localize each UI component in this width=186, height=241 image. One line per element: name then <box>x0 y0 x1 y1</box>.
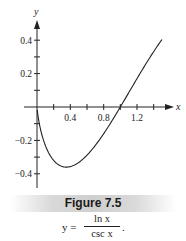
y-tick-label: 0.4 <box>20 36 32 46</box>
x-tick-label: 0.8 <box>98 113 110 123</box>
x-axis-label: x <box>175 101 181 112</box>
y-axis-label: y <box>33 6 39 17</box>
fraction-bar <box>84 226 120 227</box>
figure-caption: Figure 7.5 <box>0 196 186 210</box>
x-axis-arrow-icon <box>165 104 174 110</box>
formula-period: . <box>122 221 125 233</box>
formula-fraction: ln x csc x <box>84 213 120 240</box>
line-chart: y x 0.4 0.8 1.2 0.4 0.2 −0.2 −0.4 <box>0 0 186 195</box>
y-tick-label: 0.2 <box>20 69 32 79</box>
formula-lhs: y = <box>62 221 76 233</box>
formula-denominator: csc x <box>84 228 120 240</box>
data-series-line <box>37 39 162 167</box>
x-tick-labels: 0.4 0.8 1.2 <box>64 113 143 123</box>
y-tick-label: −0.4 <box>15 169 32 179</box>
x-tick-label: 0.4 <box>64 113 76 123</box>
y-tick-label: −0.2 <box>15 136 32 146</box>
y-axis-arrow-icon <box>34 20 40 29</box>
x-tick-label: 1.2 <box>131 113 143 123</box>
formula-numerator: ln x <box>84 213 120 225</box>
